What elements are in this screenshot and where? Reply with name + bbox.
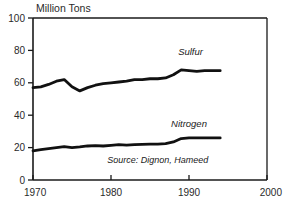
x-tick-label: 1990 <box>178 187 201 198</box>
series-lines <box>33 70 220 151</box>
y-tick-label: 0 <box>19 175 25 186</box>
x-tick-label: 1980 <box>100 187 123 198</box>
series-labels: SulfurNitrogen <box>171 46 207 128</box>
y-axis-title: Million Tons <box>36 2 91 14</box>
y-tick-label: 40 <box>14 110 26 121</box>
chart-svg: 020406080100 1970198019902000 Million To… <box>0 0 284 205</box>
y-tick-label: 80 <box>14 45 26 56</box>
y-axis-tick-labels: 020406080100 <box>8 13 25 186</box>
source-annotation: Source: Dignon, Hameed <box>107 155 209 165</box>
series-line-nitrogen <box>33 138 220 151</box>
series-label-sulfur: Sulfur <box>178 46 204 57</box>
y-tick-label: 20 <box>14 142 26 153</box>
chart-container: 020406080100 1970198019902000 Million To… <box>0 0 284 205</box>
x-tick-label: 1970 <box>24 187 47 198</box>
y-tick-label: 60 <box>14 77 26 88</box>
series-line-sulfur <box>33 70 220 91</box>
x-axis-tick-labels: 1970198019902000 <box>24 187 282 198</box>
y-tick-label: 100 <box>8 13 25 24</box>
x-tick-label: 2000 <box>260 187 283 198</box>
chart-annotations: Source: Dignon, Hameed <box>107 155 209 165</box>
series-label-nitrogen: Nitrogen <box>171 118 207 129</box>
